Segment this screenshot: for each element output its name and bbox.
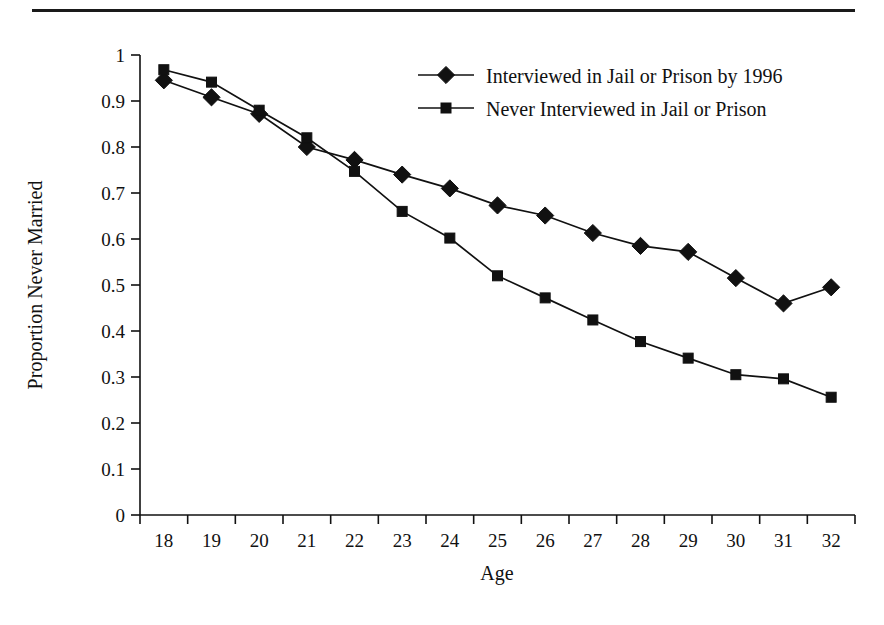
data-point-square <box>493 271 503 281</box>
data-point-square <box>826 392 836 402</box>
chart-canvas: 00.10.20.30.40.50.60.70.80.91 1819202122… <box>0 0 884 625</box>
y-axis-tick-label: 0.8 <box>101 137 125 158</box>
y-axis-tick-label: 0.1 <box>101 459 125 480</box>
x-axis-tick-label: 20 <box>250 530 269 551</box>
y-axis-tick-label: 0.4 <box>101 321 125 342</box>
x-axis-tick-label: 28 <box>631 530 650 551</box>
y-axis-tick-group: 00.10.20.30.40.50.60.70.80.91 <box>101 45 140 526</box>
y-axis-tick-label: 0 <box>116 505 126 526</box>
legend-item-2: Never Interviewed in Jail or Prison <box>418 98 766 120</box>
data-point-square <box>683 353 693 363</box>
y-axis-title: Proportion Never Married <box>24 181 47 390</box>
data-point-diamond <box>489 197 506 214</box>
data-point-square <box>350 166 360 176</box>
data-point-diamond <box>394 166 411 183</box>
x-axis-tick-label: 21 <box>297 530 316 551</box>
data-point-square <box>588 315 598 325</box>
data-point-diamond <box>727 270 744 287</box>
data-point-square <box>302 133 312 143</box>
chart-legend: Interviewed in Jail or Prison by 1996Nev… <box>418 65 783 120</box>
y-axis-tick-label: 0.2 <box>101 413 125 434</box>
x-axis-tick-label: 24 <box>440 530 460 551</box>
data-point-square <box>779 374 789 384</box>
x-axis-tick-label: 29 <box>679 530 698 551</box>
x-axis-title: Age <box>480 562 513 585</box>
data-point-square <box>540 293 550 303</box>
legend-item-1: Interviewed in Jail or Prison by 1996 <box>418 65 783 88</box>
data-point-diamond <box>203 89 220 106</box>
figure-container: 00.10.20.30.40.50.60.70.80.91 1819202122… <box>0 0 884 625</box>
data-point-diamond <box>680 243 697 260</box>
x-axis-tick-label: 19 <box>202 530 221 551</box>
legend-label: Interviewed in Jail or Prison by 1996 <box>486 65 783 88</box>
y-axis-tick-label: 1 <box>116 45 126 66</box>
y-axis-tick-label: 0.5 <box>101 275 125 296</box>
data-point-square <box>636 337 646 347</box>
y-axis-tick-label: 0.3 <box>101 367 125 388</box>
x-axis-tick-label: 26 <box>536 530 555 551</box>
x-axis-tick-label: 22 <box>345 530 364 551</box>
x-axis-tick-label: 31 <box>774 530 793 551</box>
x-axis-tick-label: 30 <box>726 530 745 551</box>
data-point-diamond <box>775 295 792 312</box>
data-point-square <box>731 370 741 380</box>
data-point-square <box>397 206 407 216</box>
x-axis-tick-label: 27 <box>583 530 602 551</box>
data-point-square <box>254 105 264 115</box>
y-axis-tick-label: 0.9 <box>101 91 125 112</box>
data-point-square <box>445 233 455 243</box>
y-axis-tick-label: 0.7 <box>101 183 125 204</box>
data-point-diamond <box>584 224 601 241</box>
x-axis-tick-label: 18 <box>154 530 173 551</box>
data-point-square <box>159 65 169 75</box>
data-point-diamond <box>823 279 840 296</box>
legend-marker-diamond <box>437 66 454 83</box>
data-point-square <box>207 77 217 87</box>
data-point-diamond <box>537 207 554 224</box>
legend-marker-square <box>441 103 451 113</box>
legend-label: Never Interviewed in Jail or Prison <box>486 98 766 120</box>
data-point-diamond <box>441 180 458 197</box>
data-point-diamond <box>632 237 649 254</box>
x-axis-tick-label: 25 <box>488 530 507 551</box>
y-axis-tick-label: 0.6 <box>101 229 125 250</box>
x-axis-tick-label: 32 <box>822 530 841 551</box>
x-axis-tick-label: 23 <box>393 530 412 551</box>
x-axis-tick-group: 181920212223242526272829303132 <box>140 515 855 551</box>
